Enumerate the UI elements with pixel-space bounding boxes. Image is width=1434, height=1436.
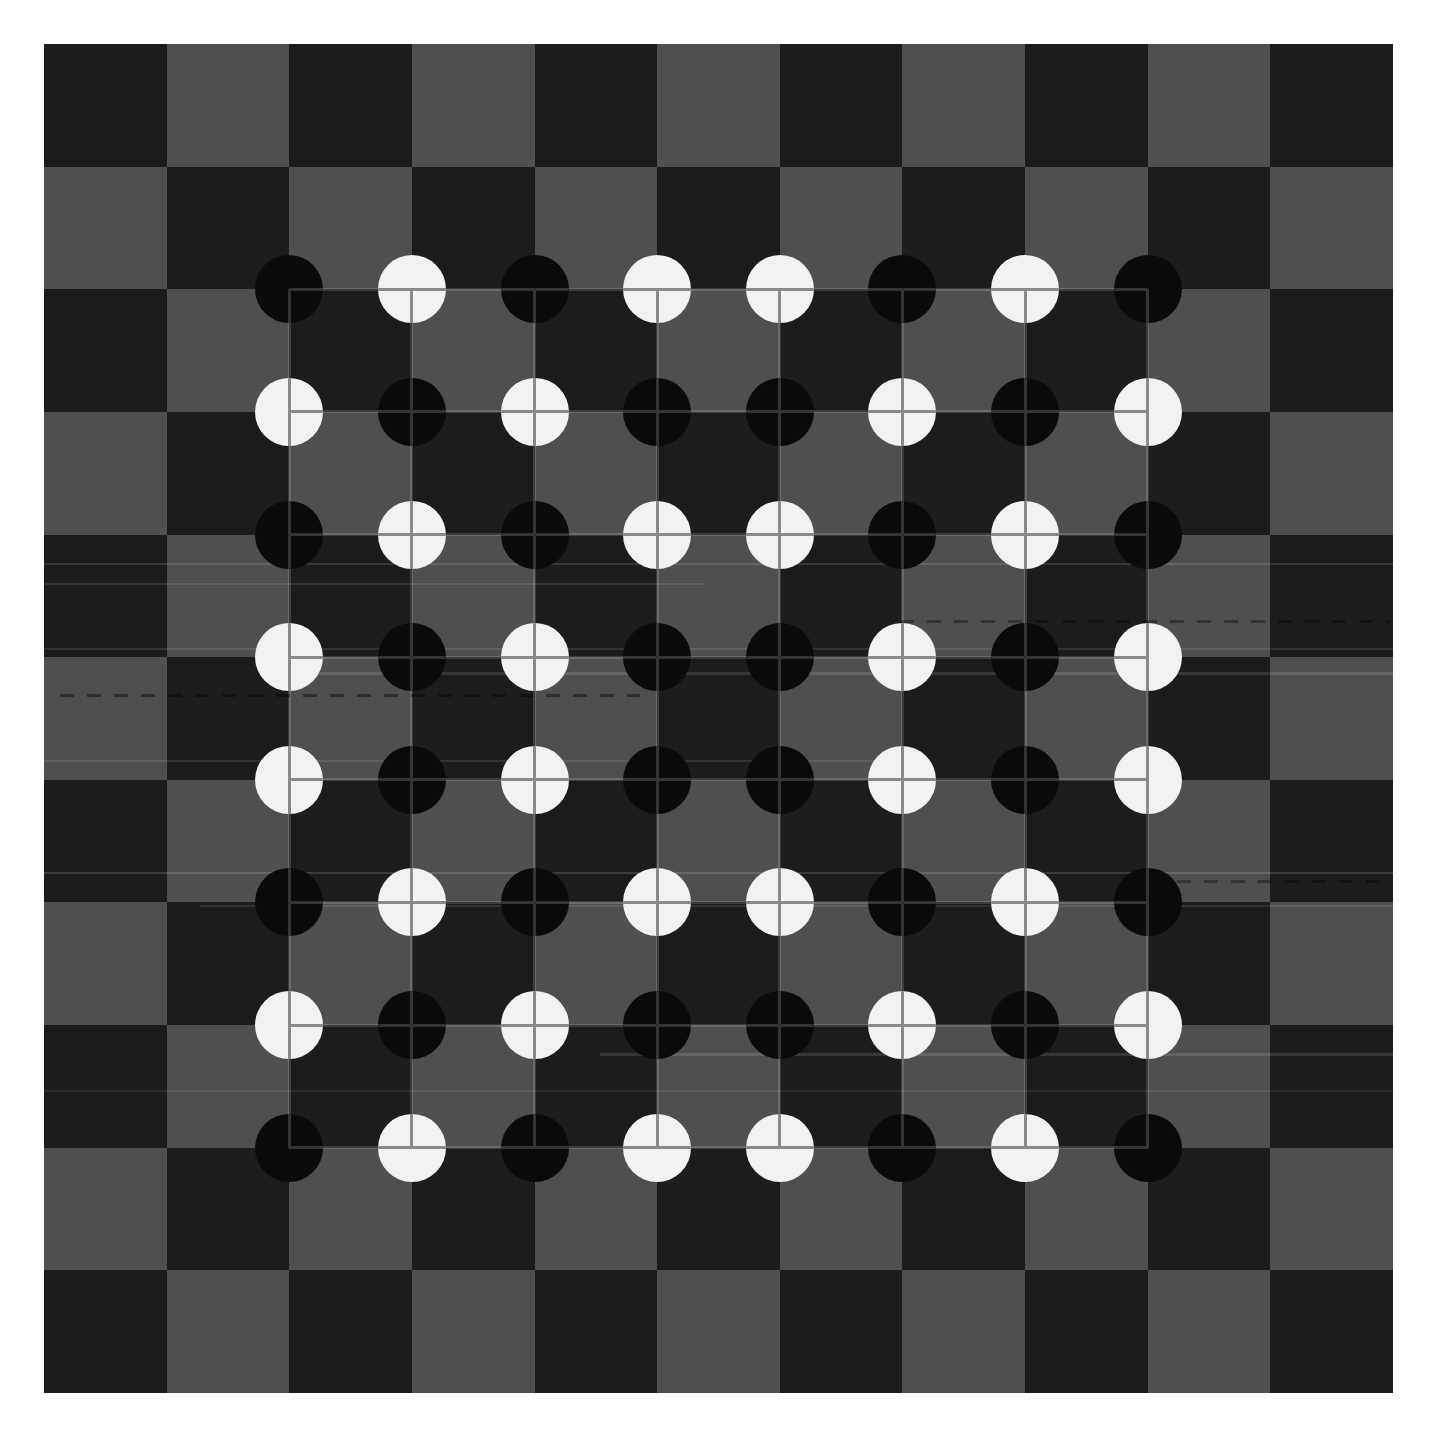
board-square-dark [167,412,290,535]
board-square-gray [780,1148,903,1271]
board-square-dark [1270,44,1393,167]
checkerboard [44,44,1393,1393]
board-square-gray [167,1025,290,1148]
board-square-dark [167,657,290,780]
board-square-gray [780,167,903,290]
board-square-dark [535,1270,658,1393]
board-square-dark [902,412,1025,535]
board-square-dark [780,1025,903,1148]
board-square-gray [167,1270,290,1393]
board-square-gray [902,780,1025,903]
board-square-dark [780,1270,903,1393]
board-square-gray [412,535,535,658]
board-square-gray [1025,1148,1148,1271]
board-square-dark [44,289,167,412]
board-square-dark [902,1148,1025,1271]
board-square-dark [902,167,1025,290]
board-square-gray [289,657,412,780]
board-square-dark [1025,535,1148,658]
board-square-dark [657,1148,780,1271]
board-square-gray [1270,1148,1393,1271]
board-square-dark [535,780,658,903]
board-square-gray [535,412,658,535]
artwork-canvas [0,0,1434,1436]
board-square-dark [535,44,658,167]
board-square-gray [167,289,290,412]
board-square-gray [167,780,290,903]
board-square-gray [902,1025,1025,1148]
board-square-dark [412,412,535,535]
board-square-gray [44,657,167,780]
board-square-dark [412,902,535,1025]
board-square-dark [289,535,412,658]
board-square-dark [535,289,658,412]
board-square-dark [44,1270,167,1393]
board-square-gray [1148,780,1271,903]
board-square-gray [167,535,290,658]
board-square-gray [412,1270,535,1393]
board-square-dark [412,167,535,290]
board-square-gray [1148,535,1271,658]
board-square-gray [657,44,780,167]
board-square-gray [657,1025,780,1148]
board-square-gray [1270,167,1393,290]
board-square-gray [289,1148,412,1271]
board-square-dark [657,657,780,780]
board-square-gray [535,902,658,1025]
board-square-gray [289,902,412,1025]
board-square-gray [535,1148,658,1271]
board-square-dark [535,1025,658,1148]
board-square-dark [167,1148,290,1271]
board-square-dark [44,1025,167,1148]
board-square-gray [1270,902,1393,1025]
board-square-gray [780,902,903,1025]
board-square-dark [1148,902,1271,1025]
board-square-dark [1148,167,1271,290]
board-square-dark [1148,1148,1271,1271]
board-square-dark [1148,657,1271,780]
board-square-gray [535,657,658,780]
board-square-gray [1025,412,1148,535]
board-square-dark [289,1270,412,1393]
board-square-dark [412,1148,535,1271]
board-square-gray [1025,902,1148,1025]
board-square-dark [412,657,535,780]
board-square-dark [902,657,1025,780]
board-square-dark [1270,780,1393,903]
board-square-dark [1025,1270,1148,1393]
board-square-dark [289,44,412,167]
board-square-gray [780,657,903,780]
board-square-dark [1270,535,1393,658]
board-square-dark [1270,1025,1393,1148]
board-square-dark [44,780,167,903]
board-square-dark [289,289,412,412]
board-square-gray [289,412,412,535]
board-square-gray [44,1148,167,1271]
board-square-gray [1148,1270,1271,1393]
board-square-dark [780,44,903,167]
board-square-gray [44,902,167,1025]
board-square-gray [902,535,1025,658]
board-square-gray [902,44,1025,167]
board-square-gray [902,1270,1025,1393]
board-square-dark [1025,780,1148,903]
board-square-dark [657,412,780,535]
board-square-dark [289,1025,412,1148]
board-square-dark [167,167,290,290]
board-square-dark [1270,289,1393,412]
board-square-dark [1270,1270,1393,1393]
board-square-dark [657,902,780,1025]
board-square-gray [412,289,535,412]
board-square-gray [902,289,1025,412]
board-square-gray [1270,657,1393,780]
board-square-dark [780,535,903,658]
board-square-dark [657,167,780,290]
checkerboard-squares [44,44,1393,1393]
board-square-gray [1270,412,1393,535]
board-square-dark [289,780,412,903]
board-square-dark [44,44,167,167]
board-square-gray [1025,167,1148,290]
board-square-gray [1025,657,1148,780]
board-square-gray [412,780,535,903]
board-square-gray [657,780,780,903]
